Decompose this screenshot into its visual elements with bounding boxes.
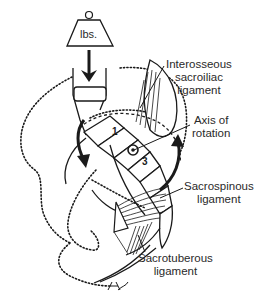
segment-1-label: 1	[112, 126, 118, 137]
artist-signature	[108, 282, 128, 290]
sacrotuberous-ligament-label: Sacrotuberous ligament	[138, 252, 213, 278]
segment-3-label: 3	[142, 156, 148, 167]
sacrospinous-ligament-label: Sacrospinous ligament	[184, 180, 254, 206]
axis-of-rotation-label: Axis of rotation	[192, 114, 230, 140]
sacroiliac-diagram: lbs. 1 3 Interosseous sacroiliac ligamen…	[0, 0, 257, 295]
interosseous-ligament-label: Interosseous sacroiliac ligament	[166, 58, 232, 97]
load-arrow-icon	[81, 50, 97, 82]
diagram-artwork	[0, 0, 257, 295]
weight-label: lbs.	[80, 28, 97, 40]
